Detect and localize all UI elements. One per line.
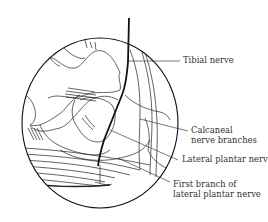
leader-lines (110, 61, 188, 182)
label-line: Lateral plantar nerve (182, 154, 268, 164)
label-line: lateral plantar nerve (173, 190, 261, 200)
label-calcaneal-nerve-branches: Calcaneal nerve branches (191, 126, 257, 145)
label-tibial-nerve: Tibial nerve (183, 56, 234, 66)
label-first-branch-lateral-plantar-nerve: First branch of lateral plantar nerve (173, 180, 261, 199)
label-lateral-plantar-nerve: Lateral plantar nerve (182, 155, 268, 165)
anatomy-drawing (22, 40, 170, 187)
label-line: nerve branches (191, 136, 257, 146)
anatomy-figure: Tibial nerve Calcaneal nerve branches La… (0, 0, 268, 222)
label-line: Tibial nerve (183, 55, 234, 65)
